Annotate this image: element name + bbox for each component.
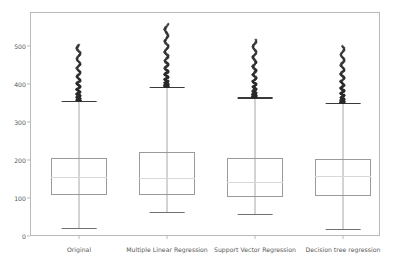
boxplot-series <box>0 0 396 272</box>
box-outlier-cluster <box>343 0 344 272</box>
boxplot-figure: 0 100 200 300 400 500 Original Multiple … <box>0 0 396 272</box>
box-outlier-cluster <box>79 0 80 272</box>
box-outlier-cluster <box>167 0 168 272</box>
box-outlier-cluster <box>255 0 256 272</box>
